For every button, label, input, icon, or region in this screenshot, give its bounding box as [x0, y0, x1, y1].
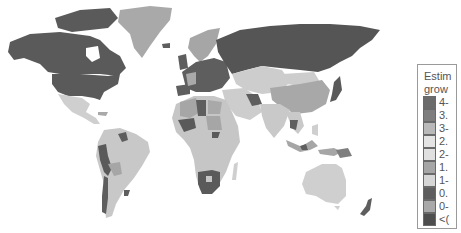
legend-swatch	[423, 187, 436, 200]
region-indonesia[interactable]	[286, 140, 342, 156]
legend-title: Estim grow	[424, 70, 452, 96]
legend-label: 3.	[439, 109, 448, 122]
legend-swatch	[423, 213, 436, 226]
region-canada-islands[interactable]	[55, 8, 118, 32]
legend-item: 1-	[423, 174, 461, 187]
region-russia[interactable]	[216, 24, 380, 74]
legend-label: 2.	[439, 135, 448, 148]
legend-label: 1.	[439, 161, 448, 174]
region-canada[interactable]	[8, 32, 126, 76]
legend-item: 0.	[423, 187, 461, 200]
legend-swatch	[423, 96, 436, 109]
region-egypt[interactable]	[208, 100, 222, 114]
legend-label: <(	[439, 213, 449, 226]
legend-swatch	[423, 148, 436, 161]
region-india[interactable]	[260, 104, 290, 138]
legend-swatch	[423, 122, 436, 135]
legend-item: 0-	[423, 200, 461, 213]
region-png[interactable]	[336, 148, 352, 158]
region-spain[interactable]	[176, 84, 190, 96]
legend-items: 4-3.3-2.2-1.1-0.0-<(	[423, 96, 461, 226]
legend-label: 3-	[439, 122, 449, 135]
region-greenland[interactable]	[118, 6, 172, 58]
legend-label: 1-	[439, 174, 449, 187]
legend-title-line2: grow	[424, 83, 452, 96]
region-scandinavia[interactable]	[188, 28, 220, 62]
legend-swatch	[423, 174, 436, 187]
legend-swatch	[423, 200, 436, 213]
legend-item: <(	[423, 213, 461, 226]
region-sudan[interactable]	[206, 116, 222, 130]
legend-item: 3.	[423, 109, 461, 122]
legend-item: 3-	[423, 122, 461, 135]
region-uruguay[interactable]	[124, 190, 130, 196]
legend-title-line1: Estim	[424, 70, 452, 83]
legend-item: 2-	[423, 148, 461, 161]
region-madagascar[interactable]	[232, 162, 238, 180]
region-new-zealand[interactable]	[360, 198, 372, 216]
region-australia[interactable]	[302, 164, 346, 204]
legend-label: 0-	[439, 200, 449, 213]
legend-swatch	[423, 161, 436, 174]
region-mexico[interactable]	[58, 94, 100, 124]
region-uk[interactable]	[178, 54, 188, 70]
legend-item: 1.	[423, 161, 461, 174]
legend-item: 2.	[423, 135, 461, 148]
legend: Estim grow 4-3.3-2.2-1.1-0.0-<(	[417, 64, 457, 229]
legend-label: 0.	[439, 187, 448, 200]
legend-swatch	[423, 135, 436, 148]
legend-swatch	[423, 109, 436, 122]
legend-item: 4-	[423, 96, 461, 109]
legend-label: 2-	[439, 148, 449, 161]
region-japan[interactable]	[330, 76, 342, 102]
legend-label: 4-	[439, 96, 449, 109]
